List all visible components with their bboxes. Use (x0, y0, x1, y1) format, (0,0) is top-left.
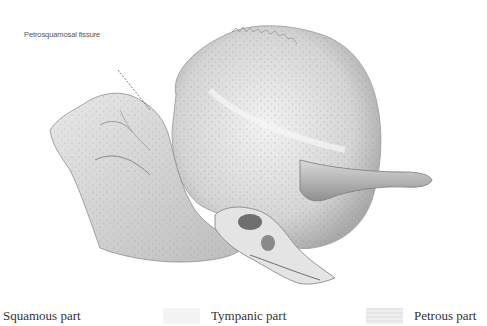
legend-item-tympanic: Tympanic part (163, 305, 286, 326)
petrous-swatch (366, 308, 403, 324)
legend-label: Squamous part (3, 308, 81, 324)
bone-drawing (0, 0, 487, 300)
legend-label: Tympanic part (211, 308, 286, 324)
legend-label: Petrous part (414, 308, 476, 324)
tympanic-swatch (163, 308, 200, 324)
petrosquamosal-fissure-label: Petrosquamosal fissure (24, 30, 100, 39)
temporal-bone-illustration: Petrosquamosal fissure (0, 0, 487, 300)
legend: Squamous part Tympanic part Petrous part (0, 305, 487, 326)
legend-item-squamous: Squamous part (3, 305, 81, 326)
legend-item-petrous: Petrous part (366, 305, 476, 326)
